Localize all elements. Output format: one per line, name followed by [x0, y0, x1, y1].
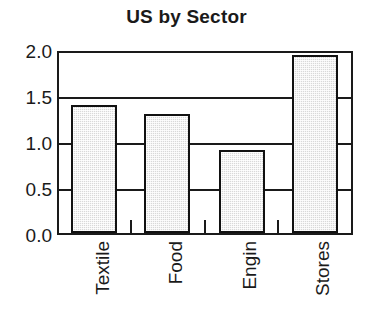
x-label-stores-text: Stores: [313, 241, 332, 296]
bar-engin: [219, 150, 265, 233]
y-tick-label-0-5: 0.5: [0, 180, 52, 199]
x-label-food-text: Food: [166, 241, 185, 284]
y-tick-label-1-0: 1.0: [0, 134, 52, 153]
x-label-stores: Stores: [313, 241, 332, 296]
y-tick-label-2-0: 2.0: [0, 42, 52, 61]
x-axis-category-labels: Textile Food Engin Stores: [0, 241, 373, 332]
bar-food: [144, 114, 190, 233]
x-label-engin-text: Engin: [240, 241, 259, 290]
bar-stores: [292, 55, 338, 233]
x-label-textile: Textile: [93, 241, 112, 295]
x-axis-tick-1: [130, 220, 132, 233]
bar-chart-figure: US by Sector 2.0 1.5 1.0 0.5 0.0 Textile…: [0, 0, 373, 332]
plot-area: [57, 51, 353, 235]
y-tick-label-1-5: 1.5: [0, 88, 52, 107]
x-axis-tick-2: [204, 220, 206, 233]
chart-title: US by Sector: [0, 6, 373, 28]
x-axis-tick-3: [277, 220, 279, 233]
x-label-engin: Engin: [240, 241, 259, 290]
bar-textile: [71, 105, 117, 233]
x-label-textile-text: Textile: [93, 241, 112, 295]
x-label-food: Food: [166, 241, 185, 284]
